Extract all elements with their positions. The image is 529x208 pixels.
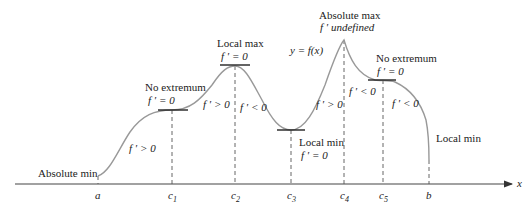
label-no-extremum-1: No extremum [145, 81, 206, 93]
svg-text:c1: c1 [168, 189, 177, 204]
label-deriv-c4-c5: f ′ < 0 [349, 85, 376, 97]
label-no-extremum-2: No extremum [376, 52, 437, 64]
tangent-marks [158, 65, 396, 130]
svg-text:a: a [95, 189, 101, 201]
svg-text:c5: c5 [379, 189, 388, 204]
label-local-max-eq: f ′ = 0 [221, 50, 248, 62]
svg-text:b: b [426, 189, 432, 201]
label-local-min-b: Local min [436, 132, 481, 144]
label-no-extremum-2-eq: f ′ = 0 [377, 65, 404, 77]
label-deriv-c1-c2: f ′ > 0 [203, 98, 230, 110]
label-local-min-c3: Local min [299, 136, 344, 148]
label-absolute-min: Absolute min [38, 167, 98, 179]
label-deriv-c3-c4: f ′ > 0 [316, 98, 343, 110]
label-deriv-a-c1: f ′ > 0 [129, 142, 156, 154]
label-absolute-max: Absolute max [319, 9, 381, 21]
svg-text:c3: c3 [287, 189, 296, 204]
extrema-diagram: x a c1 c2 c3 c4 c5 b Absolute min No ext… [0, 0, 529, 208]
tick-labels: a c1 c2 c3 c4 c5 b [95, 189, 432, 204]
label-local-max: Local max [217, 37, 264, 49]
label-deriv-c2-c3: f ′ < 0 [240, 101, 267, 113]
svg-text:c2: c2 [231, 189, 240, 204]
label-deriv-c5-b: f ′ < 0 [392, 97, 419, 109]
label-no-extremum-1-eq: f ′ = 0 [148, 94, 175, 106]
svg-text:c4: c4 [340, 189, 349, 204]
label-absolute-max-eq: f ′ undefined [320, 21, 375, 33]
x-axis-label: x [516, 177, 522, 189]
label-local-min-c3-eq: f ′ = 0 [301, 149, 328, 161]
label-curve: y = f(x) [289, 44, 323, 57]
diagram-canvas: x a c1 c2 c3 c4 c5 b Absolute min No ext… [0, 0, 529, 208]
